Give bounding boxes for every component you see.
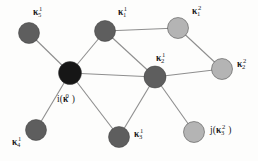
node-center[interactable]: [59, 62, 82, 85]
edge-layer: [29, 28, 222, 137]
node-kappa-2-2[interactable]: [212, 59, 233, 80]
node-kappa-5-1[interactable]: [19, 23, 40, 44]
edge-center-kappa-3-1: [70, 73, 119, 137]
node-kappa-3-1-label: κ31: [134, 130, 146, 140]
node-kappa-2-1-label: κ21: [156, 54, 168, 64]
node-kappa-3-2[interactable]: [184, 122, 205, 143]
node-kappa-1-1[interactable]: [95, 21, 116, 42]
node-center-label: i(κ0): [57, 95, 75, 105]
graph-figure: i(κ0)κ51κ11κ21κ41κ31κ12κ22j(κ32): [0, 0, 258, 161]
node-kappa-1-2-label: κ12: [192, 7, 204, 17]
node-kappa-1-1-label: κ11: [118, 8, 130, 18]
node-kappa-3-2-label: j(κ32): [210, 126, 231, 136]
node-kappa-4-1-label: κ41: [12, 138, 24, 148]
node-kappa-5-1-label: κ51: [33, 8, 45, 18]
node-kappa-2-1[interactable]: [144, 66, 166, 88]
edge-center-kappa-2-1: [70, 73, 155, 77]
node-kappa-1-2[interactable]: [168, 18, 189, 39]
node-kappa-2-2-label: κ22: [237, 60, 249, 70]
node-kappa-4-1[interactable]: [26, 120, 47, 141]
node-layer: [19, 18, 233, 148]
edge-kappa-1-1-kappa-1-2: [105, 28, 178, 31]
graph-canvas: [0, 0, 258, 161]
node-kappa-3-1[interactable]: [109, 127, 130, 148]
